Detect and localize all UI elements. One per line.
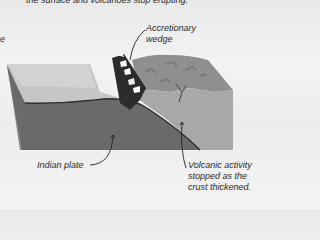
label-accretionary: Accretionary <box>146 23 196 34</box>
label-volcanic-2: stopped as the <box>188 171 247 182</box>
label-volcanic-3: crust thickened. <box>188 182 251 193</box>
accretionary-leader <box>130 30 145 60</box>
label-volcanic-1: Volcanic activity <box>188 160 252 171</box>
crust-top <box>132 55 233 92</box>
label-indian-plate: Indian plate <box>37 160 84 171</box>
label-wedge: wedge <box>146 34 173 45</box>
